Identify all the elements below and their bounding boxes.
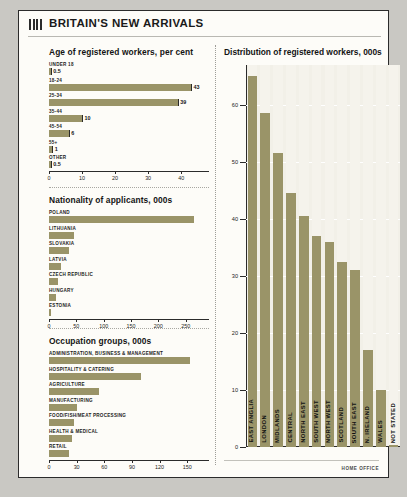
bar-track — [49, 263, 209, 270]
bar-category-label: NOT STATED — [391, 403, 397, 443]
bar-category-label: SCOTLAND — [339, 407, 345, 443]
bar-column — [376, 65, 386, 447]
footer-divider — [224, 460, 379, 461]
bar-column — [260, 65, 270, 447]
bar — [49, 263, 61, 270]
source-label: HOME OFFICE — [342, 466, 379, 471]
axis-tick-label: 150 — [183, 464, 192, 470]
bar-row: LATVIA — [49, 257, 209, 270]
axis-tick-label: 30 — [224, 273, 238, 279]
bar-row: MANUFACTURING — [49, 398, 209, 411]
bar-track — [49, 247, 209, 254]
bar-row: ESTONIA — [49, 303, 209, 316]
column-divider — [215, 45, 216, 465]
bar-category-label: SOUTH EAST — [352, 402, 358, 443]
header-divider — [28, 36, 381, 37]
bar-value-label: 1 — [52, 146, 58, 153]
bar-category-label: EAST ANGLIA — [249, 399, 255, 443]
bar-value-label: 10 — [82, 115, 91, 122]
bar-row: HOSPITALITY & CATERING — [49, 367, 209, 380]
page-title: BRITAIN'S NEW ARRIVALS — [49, 17, 204, 29]
bar — [389, 445, 399, 447]
chart-age-bars: UNDER 180.518-244325-343935-441045-54655… — [49, 62, 209, 168]
bar-value-label: 0.5 — [51, 161, 61, 168]
bar-track — [49, 404, 209, 411]
bar-row: 55+1 — [49, 140, 209, 153]
bar-category-label: WALES — [378, 420, 384, 443]
bar — [49, 232, 74, 239]
axis-tick-label: 10 — [224, 387, 238, 393]
bar-row: RETAIL — [49, 444, 209, 457]
bar — [260, 113, 270, 447]
chart-occupation-xaxis: 0306090120150 — [49, 460, 209, 473]
bar-track — [49, 357, 209, 364]
bar-track — [49, 373, 209, 380]
bar-row: 45-546 — [49, 124, 209, 137]
chart-distribution-panel: Distribution of registered workers, 000s… — [224, 47, 402, 461]
chart-nationality-xaxis: 050100150200250 — [49, 319, 209, 332]
axis-tick-label: 60 — [101, 464, 107, 470]
chart-age-panel: Age of registered workers, per cent UNDE… — [49, 47, 209, 184]
bar-row: SLOVAKIA — [49, 241, 209, 254]
bar-category-label: CENTRAL — [288, 412, 294, 443]
axis-tick-label: 40 — [178, 175, 184, 181]
chart-distribution-title: Distribution of registered workers, 000s — [224, 47, 402, 57]
axis-tick — [240, 162, 246, 163]
axis-tick — [240, 276, 246, 277]
bar — [49, 278, 58, 285]
bar-column — [350, 65, 360, 447]
bar-column — [273, 65, 283, 447]
axis-tick-label: 20 — [112, 175, 118, 181]
bar-category-label: NORTH WEST — [326, 400, 332, 443]
chart-occupation-title: Occupation groups, 000s — [49, 336, 209, 346]
bar-category-label: N. IRELAND — [365, 406, 371, 443]
bar-column — [312, 65, 322, 447]
bar-track — [49, 435, 209, 442]
axis-tick — [240, 390, 246, 391]
header: BRITAIN'S NEW ARRIVALS — [19, 11, 388, 37]
bar — [49, 247, 69, 254]
axis-tick-label: 0 — [48, 175, 51, 181]
chart-occupation-panel: Occupation groups, 000s ADMINISTRATION, … — [49, 336, 209, 473]
bar-row: AGRICULTURE — [49, 382, 209, 395]
bar-value-label: 43 — [191, 84, 200, 91]
bar-chart-icon — [29, 19, 43, 30]
bar-row: 18-2443 — [49, 78, 209, 91]
chart-nationality-title: Nationality of applicants, 000s — [49, 195, 209, 205]
bar-column — [389, 65, 399, 447]
bar-column-background — [389, 65, 399, 447]
bar — [49, 435, 72, 442]
axis-tick — [240, 219, 246, 220]
bar-track — [49, 278, 209, 285]
bar-track — [49, 232, 209, 239]
bar — [49, 84, 191, 91]
axis-tick-label: 60 — [224, 102, 238, 108]
bar-column — [337, 65, 347, 447]
bar-track: 39 — [49, 99, 209, 106]
axis-tick-label: 40 — [224, 216, 238, 222]
bar — [286, 193, 296, 447]
chart-age-xaxis: 010203040 — [49, 171, 209, 184]
bar — [49, 450, 69, 457]
panel-divider-1 — [49, 187, 209, 188]
bar — [49, 373, 141, 380]
bar-row: UNDER 180.5 — [49, 62, 209, 75]
chart-distribution-plot: 0102030405060EAST ANGLIALONDONMIDLANDSCE… — [224, 65, 400, 461]
bar-track — [49, 294, 209, 301]
bar — [49, 357, 190, 364]
bar-track — [49, 419, 209, 426]
bar-column — [325, 65, 335, 447]
bar — [273, 153, 283, 447]
chart-nationality-panel: Nationality of applicants, 000s POLANDLI… — [49, 195, 209, 332]
axis-tick-label: 50 — [224, 159, 238, 165]
axis-tick-label: 10 — [79, 175, 85, 181]
bar-column — [248, 65, 258, 447]
bar-track: 0.5 — [49, 68, 209, 75]
bar-row: 35-4410 — [49, 109, 209, 122]
bar-row: 25-3439 — [49, 93, 209, 106]
bar-value-label: 6 — [69, 130, 75, 137]
bar-category-label: NORTH EAST — [301, 401, 307, 443]
bar-value-label: 0.5 — [51, 68, 61, 75]
chart-occupation-bars: ADMINISTRATION, BUSINESS & MANAGEMENTHOS… — [49, 351, 209, 457]
bar-row: OTHER0.5 — [49, 155, 209, 168]
